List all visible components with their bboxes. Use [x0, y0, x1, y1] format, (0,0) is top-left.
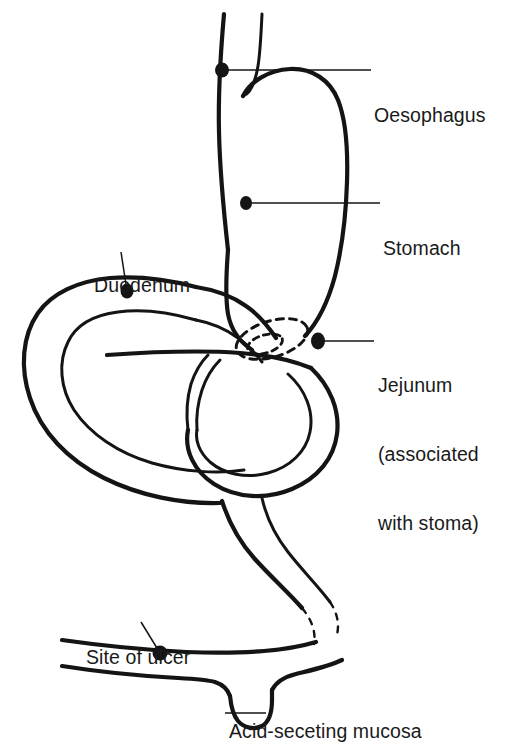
- label-mucosa-line-1: Acid-seceting mucosa: [229, 720, 429, 743]
- jejunum-loop-inner: [197, 374, 312, 476]
- small-bowel-right-wall: [262, 498, 330, 602]
- label-stomach-line-1: Stomach: [383, 237, 461, 260]
- stoma-inner-dashed-ellipse: [245, 330, 285, 358]
- stomach-marker-dot: [240, 196, 252, 210]
- label-oesophagus: Oesophagus: [374, 58, 486, 173]
- small-bowel-dashed-break-right: [330, 602, 338, 638]
- jejunum-marker-dot: [311, 333, 325, 350]
- jejunum-afferent-limb-right: [197, 360, 220, 430]
- label-jejunum-line-3: with stoma): [378, 512, 479, 535]
- label-stomach: Stomach: [383, 191, 461, 306]
- label-ulcer-line-1: Site of ulcer: [86, 646, 190, 669]
- label-duodenum-line-1: Duodenum: [94, 274, 190, 297]
- label-site-of-ulcer: Site of ulcer: [86, 600, 190, 715]
- oesophagus-tube-left: [219, 14, 228, 250]
- oesophagus-marker-dot: [215, 63, 229, 78]
- label-duodenum: Duodenum: [94, 228, 190, 343]
- label-jejunum: Jejunum (associated with stoma): [378, 328, 479, 581]
- label-jejunum-line-1: Jejunum: [378, 374, 479, 397]
- jejunum-loop-outer: [187, 368, 337, 496]
- label-acid-secreting-mucosa: Acid-seceting mucosa (Meckel’s diverticu…: [229, 674, 429, 747]
- label-jejunum-line-2: (associated: [378, 443, 479, 466]
- label-oesophagus-line-1: Oesophagus: [374, 104, 486, 127]
- diagram-canvas: Oesophagus Stomach Jejunum (associated w…: [0, 0, 516, 747]
- small-bowel-dashed-break-left: [302, 608, 315, 644]
